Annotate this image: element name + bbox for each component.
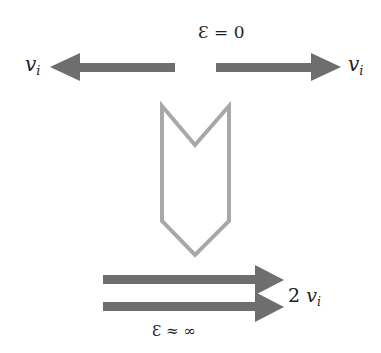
chevron-down-icon	[162, 106, 229, 255]
diagram-canvas: Ɛ = 0 vi vi 2 vi Ɛ ≈ ∞	[0, 0, 381, 353]
arrow-right-icon	[216, 53, 341, 81]
velocity-double-label: 2 vi	[288, 284, 321, 309]
energy-infinite-label: Ɛ ≈ ∞	[152, 322, 196, 340]
velocity-var: v	[25, 52, 36, 76]
velocity-right-label: vi	[348, 52, 363, 78]
velocity-sub: i	[36, 63, 40, 78]
diagram-graphics	[0, 0, 381, 353]
velocity-sub: i	[359, 63, 363, 78]
arrow-left-icon	[50, 53, 175, 81]
velocity-var: v	[306, 284, 317, 306]
arrow-right-lower-icon	[103, 292, 284, 322]
velocity-var: v	[348, 52, 359, 76]
velocity-coeff: 2	[288, 284, 300, 306]
velocity-sub: i	[317, 295, 321, 309]
energy-zero-label: Ɛ = 0	[198, 22, 244, 42]
velocity-left-label: vi	[25, 52, 40, 78]
arrow-right-upper-icon	[103, 265, 284, 295]
